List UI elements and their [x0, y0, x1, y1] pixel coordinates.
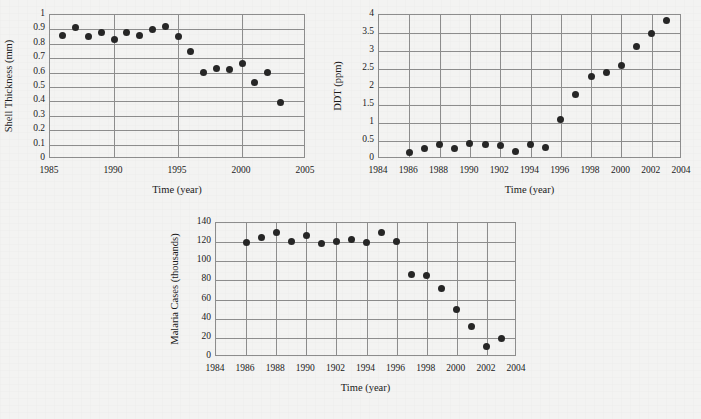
- y-axis-tick-label: 140: [181, 217, 211, 227]
- data-point: [483, 343, 490, 350]
- y-axis-title: Malaria Cases (thousands): [169, 233, 180, 344]
- x-axis-tick-label: 1984: [206, 363, 225, 373]
- data-point: [498, 335, 505, 342]
- x-axis-tick-label: 1986: [236, 363, 255, 373]
- gridline-horizontal: [216, 319, 515, 320]
- gridline-horizontal: [216, 300, 515, 301]
- gridline-vertical: [427, 223, 428, 355]
- gridline-vertical: [276, 223, 277, 355]
- data-point: [243, 239, 250, 246]
- data-point: [408, 271, 415, 278]
- data-point: [393, 238, 400, 245]
- x-axis-tick-label: 1902: [326, 363, 345, 373]
- gridline-horizontal: [216, 261, 515, 262]
- x-axis-title: Time (year): [341, 382, 390, 393]
- data-point: [303, 232, 310, 239]
- x-axis-tick-label: 1994: [356, 363, 375, 373]
- y-axis-tick-label: 100: [181, 256, 211, 266]
- gridline-horizontal: [216, 280, 515, 281]
- gridline-vertical: [457, 223, 458, 355]
- y-axis-tick-label: 120: [181, 236, 211, 246]
- y-axis-tick-label: 0: [181, 351, 211, 361]
- y-axis-tick-label: 80: [181, 275, 211, 285]
- x-axis-tick-label: 1988: [266, 363, 285, 373]
- gridline-vertical: [487, 223, 488, 355]
- x-axis-tick-label: 1998: [416, 363, 435, 373]
- data-point: [348, 236, 355, 243]
- data-point: [363, 239, 370, 246]
- x-axis-tick-label: 1996: [386, 363, 405, 373]
- x-axis-tick-label: 1990: [296, 363, 315, 373]
- data-point: [318, 240, 325, 247]
- malaria-cases-chart: 0204060801001201401984198619881990190219…: [0, 0, 701, 419]
- data-point: [438, 285, 445, 292]
- data-point: [423, 272, 430, 279]
- data-point: [273, 229, 280, 236]
- x-axis-tick-label: 2002: [476, 363, 495, 373]
- y-axis-tick-label: 20: [181, 332, 211, 342]
- y-axis-tick-label: 40: [181, 313, 211, 323]
- gridline-vertical: [306, 223, 307, 355]
- x-axis-tick-label: 2000: [446, 363, 465, 373]
- data-point: [378, 229, 385, 236]
- gridline-horizontal: [216, 338, 515, 339]
- data-point: [288, 238, 295, 245]
- data-point: [333, 238, 340, 245]
- x-axis-tick-label: 2004: [507, 363, 526, 373]
- malaria-cases-plot-area: [215, 222, 516, 356]
- data-point: [258, 234, 265, 241]
- data-point: [453, 306, 460, 313]
- y-axis-tick-label: 60: [181, 294, 211, 304]
- data-point: [468, 323, 475, 330]
